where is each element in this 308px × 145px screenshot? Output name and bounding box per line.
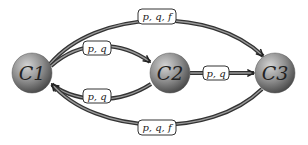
node-c2[interactable]: C2 (150, 53, 190, 93)
svg-text:p, q, f: p, q, f (142, 122, 174, 133)
node-c1[interactable]: C1 (12, 53, 52, 93)
svg-text:C1: C1 (19, 62, 46, 84)
edge-label-c1-c3: p, q, f (138, 9, 176, 24)
edge-c1-to-c3[interactable] (50, 20, 263, 64)
svg-text:p, q: p, q (87, 43, 106, 54)
edge-label-c1-c2: p, q (83, 41, 111, 55)
svg-text:C3: C3 (262, 62, 289, 84)
edge-c3-to-c1[interactable] (52, 84, 262, 125)
node-c3[interactable]: C3 (255, 53, 295, 93)
edge-label-c3-c1: p, q, f (138, 120, 176, 135)
svg-text:p, q: p, q (87, 91, 106, 102)
edge-label-c2-c1: p, q (83, 89, 111, 103)
svg-text:p, q: p, q (206, 68, 225, 79)
svg-text:p, q, f: p, q, f (142, 11, 174, 22)
svg-text:C2: C2 (157, 62, 184, 84)
state-diagram: p, q, f p, q p, q p, q p, q, f C1 C2 (0, 0, 308, 145)
edge-label-c2-c3: p, q (203, 66, 229, 80)
